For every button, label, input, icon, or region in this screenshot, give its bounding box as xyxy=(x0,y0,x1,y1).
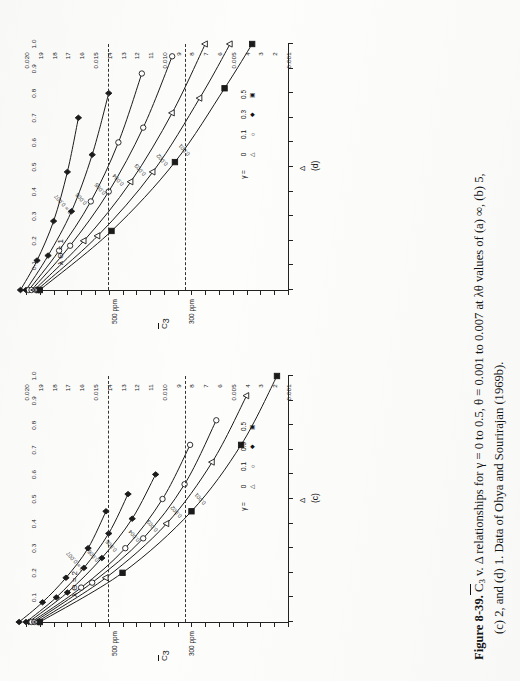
data-point-marker xyxy=(149,169,155,175)
y-axis-tick xyxy=(274,290,275,295)
data-point-marker xyxy=(67,243,72,248)
y-axis-title-text-d: C xyxy=(160,323,169,329)
x-axis-tick xyxy=(288,375,293,376)
caption-c-term: C3 xyxy=(472,579,486,595)
x-axis-tick-label: 0 xyxy=(30,288,37,292)
y-axis-tick-label: 8 xyxy=(188,52,195,56)
y-axis-tick xyxy=(191,622,192,627)
y-axis-tick xyxy=(247,290,248,295)
x-axis-tick xyxy=(288,424,293,425)
y-axis-tick-label: 16 xyxy=(78,384,85,391)
data-point-marker xyxy=(202,41,208,47)
y-axis-tick-label: 7 xyxy=(202,384,209,388)
x-axis-tick-label: 0.8 xyxy=(30,421,37,430)
x-axis-tick xyxy=(288,596,293,597)
data-point-marker xyxy=(152,472,158,477)
x-axis-tick xyxy=(288,92,293,93)
x-axis-tick-label: 0 xyxy=(30,620,37,624)
y-axis-tick xyxy=(164,290,165,295)
legend-value: 0.3 xyxy=(240,108,247,121)
y-axis-tick xyxy=(54,622,55,627)
y-axis-tick xyxy=(260,290,261,295)
data-point-marker xyxy=(123,546,128,551)
y-axis-tick-label: 4 xyxy=(243,52,250,56)
x-axis-title-d: Δ xyxy=(298,166,307,171)
x-axis-tick-label: 1.0 xyxy=(30,371,37,380)
ppm-guide-line xyxy=(185,376,186,622)
x-axis-tick-label: 0.3 xyxy=(30,212,37,221)
x-axis-tick-label: 0.6 xyxy=(30,470,37,479)
y-axis-tick-label: 0.010 xyxy=(160,52,167,68)
x-axis-tick-label: 0.4 xyxy=(30,187,37,196)
x-axis-tick-label: 0.9 xyxy=(30,396,37,405)
x-axis-tick xyxy=(288,117,293,118)
y-axis-tick-label: 2 xyxy=(271,52,278,56)
legend-symbol-square: ▣ xyxy=(248,88,256,101)
y-axis-tick-label: 19 xyxy=(36,384,43,391)
x-axis-tick-label: 0.5 xyxy=(30,494,37,503)
chart-panel-d: 00.10.20.30.40.50.60.70.80.91.00.0012340… xyxy=(10,31,340,331)
y-axis-tick-label: 3 xyxy=(257,52,264,56)
legend-values-row: γ =00.10.30.5 xyxy=(240,88,247,181)
data-point-marker xyxy=(226,41,232,47)
legend-symbols-row: △○◆▣ xyxy=(248,88,256,181)
x-axis-tick xyxy=(288,166,293,167)
x-axis-tick xyxy=(288,215,293,216)
data-point-marker xyxy=(127,179,133,185)
y-axis-title-d: C3 xyxy=(160,318,171,329)
data-point-marker xyxy=(214,418,219,423)
y-axis-tick-label: 2 xyxy=(271,384,278,388)
data-point-marker xyxy=(45,253,51,258)
y-axis-tick xyxy=(109,290,110,295)
legend-symbol-diamond: ◆ xyxy=(248,440,256,453)
x-axis-tick xyxy=(288,240,293,241)
y-axis-tick xyxy=(233,622,234,627)
data-point-marker xyxy=(249,41,254,46)
y-axis-tick-label: 0.015 xyxy=(91,52,98,68)
data-point-marker xyxy=(209,459,215,465)
data-point-marker xyxy=(163,521,169,527)
y-axis-tick xyxy=(219,290,220,295)
y-axis-tick xyxy=(123,622,124,627)
caption-line-1: Figure 8-39. C3 v. Δ relationships for γ… xyxy=(470,40,490,660)
y-axis-tick xyxy=(150,622,151,627)
y-axis-tick xyxy=(81,622,82,627)
legend-symbol-square: ▣ xyxy=(248,420,256,433)
data-point-marker xyxy=(94,233,100,239)
y-axis-tick xyxy=(136,622,137,627)
x-axis-tick-label: 0.2 xyxy=(30,236,37,245)
y-axis-tick xyxy=(233,290,234,295)
legend-title: γ = xyxy=(240,500,247,513)
legend-symbol-triangle: △ xyxy=(248,480,256,493)
y-axis-tick xyxy=(178,622,179,627)
y-axis-tick xyxy=(164,622,165,627)
figure-number: Figure 8-39. xyxy=(472,595,486,660)
y-axis-tick xyxy=(95,290,96,295)
y-axis-tick-label: 16 xyxy=(78,52,85,59)
x-axis-tick xyxy=(288,547,293,548)
y-axis-tick xyxy=(136,290,137,295)
panel-id-d: (d) xyxy=(310,161,320,171)
y-axis-tick xyxy=(123,290,124,295)
y-axis-tick-label: 8 xyxy=(188,384,195,388)
y-axis-title-text-c: C xyxy=(160,655,169,661)
data-point-marker xyxy=(274,373,279,378)
legend-symbol-triangle: △ xyxy=(248,148,256,161)
data-point-marker xyxy=(89,580,94,585)
x-axis-tick xyxy=(288,523,293,524)
lambda-theta-label-c: λ Θ = 2 xyxy=(70,571,79,597)
x-axis-tick-label: 0.2 xyxy=(30,568,37,577)
legend-value: 0.3 xyxy=(240,440,247,453)
x-axis-tick xyxy=(288,141,293,142)
data-point-marker xyxy=(109,228,114,233)
data-point-marker xyxy=(89,152,95,157)
y-axis-tick xyxy=(205,290,206,295)
legend-d: γ =00.10.30.5△○◆▣ xyxy=(240,88,257,181)
y-axis-tick-label: 11 xyxy=(147,52,154,59)
ppm-guide-label: 300 ppm xyxy=(188,631,195,656)
legend-c: γ =00.10.30.5△○◆▣ xyxy=(240,420,257,513)
data-point-marker xyxy=(50,218,56,223)
chart-panel-c: 00.10.20.30.40.50.60.70.80.91.00.0012340… xyxy=(10,363,340,663)
y-axis-tick-label: 0.020 xyxy=(23,384,30,400)
y-axis-tick-label: 11 xyxy=(147,384,154,391)
